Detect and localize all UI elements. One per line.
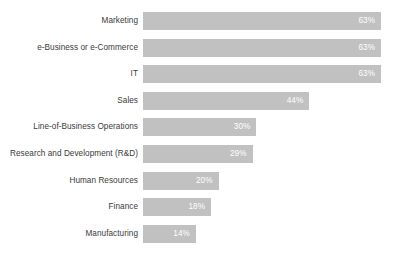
bar-row: Sales44%: [0, 92, 398, 110]
category-label: IT: [0, 65, 143, 83]
bar: 29%: [143, 145, 253, 163]
category-label: Research and Development (R&D): [0, 145, 143, 163]
bar: 14%: [143, 225, 196, 243]
bar-value-label: 18%: [188, 198, 205, 216]
category-label: Human Resources: [0, 172, 143, 190]
category-label: Finance: [0, 198, 143, 216]
bar-row: Marketing63%: [0, 12, 398, 30]
bar: 63%: [143, 65, 381, 83]
bar-track: 30%: [143, 118, 398, 136]
bar-track: 18%: [143, 198, 398, 216]
bar: 30%: [143, 118, 256, 136]
bar-value-label: 20%: [196, 172, 213, 190]
bar: 20%: [143, 172, 219, 190]
bar-row: Research and Development (R&D)29%: [0, 145, 398, 163]
bar-row: Finance18%: [0, 198, 398, 216]
horizontal-bar-chart: Marketing63%e-Business or e-Commerce63%I…: [0, 0, 398, 267]
bar-track: 29%: [143, 145, 398, 163]
bar-value-label: 63%: [358, 65, 375, 83]
category-label: Marketing: [0, 12, 143, 30]
bar: 63%: [143, 39, 381, 57]
bar-track: 63%: [143, 65, 398, 83]
bar-value-label: 63%: [358, 39, 375, 57]
bar-value-label: 30%: [234, 118, 251, 136]
bar-value-label: 44%: [287, 92, 304, 110]
bar: 18%: [143, 198, 211, 216]
category-label: e-Business or e-Commerce: [0, 39, 143, 57]
bar-value-label: 14%: [173, 225, 190, 243]
bar-value-label: 29%: [230, 145, 247, 163]
bar: 63%: [143, 12, 381, 30]
bar-row: Human Resources20%: [0, 172, 398, 190]
category-label: Line-of-Business Operations: [0, 118, 143, 136]
bar-value-label: 63%: [358, 12, 375, 30]
bar-track: 44%: [143, 92, 398, 110]
bar: 44%: [143, 92, 309, 110]
bar-row: Line-of-Business Operations30%: [0, 118, 398, 136]
bar-track: 63%: [143, 39, 398, 57]
category-label: Sales: [0, 92, 143, 110]
bar-track: 63%: [143, 12, 398, 30]
bar-row: Manufacturing14%: [0, 225, 398, 243]
bar-track: 20%: [143, 172, 398, 190]
bar-row: e-Business or e-Commerce63%: [0, 39, 398, 57]
bar-track: 14%: [143, 225, 398, 243]
bar-row: IT63%: [0, 65, 398, 83]
category-label: Manufacturing: [0, 225, 143, 243]
